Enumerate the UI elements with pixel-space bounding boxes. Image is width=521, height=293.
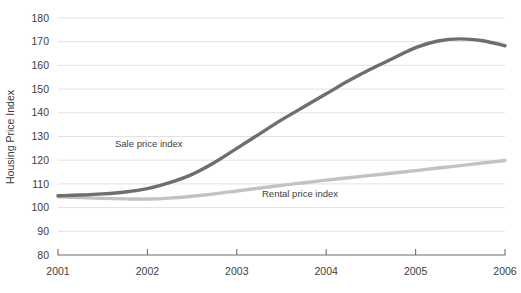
y-axis-tick-label: 150: [31, 83, 49, 95]
y-axis-title: Housing Price Index: [4, 89, 16, 184]
housing-price-index-chart: 200120022003200420052006 809010011012013…: [0, 0, 521, 293]
y-axis-tick-label: 160: [31, 59, 49, 71]
y-axis-tick-label: 110: [32, 178, 49, 190]
y-axis-tick-label: 100: [31, 201, 49, 213]
y-axis-tick-label: 140: [31, 106, 49, 118]
y-axis-tick-label: 80: [37, 249, 49, 261]
x-axis-tick-label: 2004: [315, 265, 339, 277]
x-axis-tick-label: 2003: [225, 265, 249, 277]
chart-canvas: 200120022003200420052006 809010011012013…: [0, 0, 521, 293]
y-axis-tick-label: 120: [31, 154, 49, 166]
y-axis-tick-label: 130: [31, 130, 49, 142]
series-label-sale-price-index: Sale price index: [115, 138, 183, 149]
y-axis-tick-label: 170: [31, 35, 49, 47]
chart-background: [0, 0, 521, 293]
x-axis-tick-label: 2005: [404, 265, 428, 277]
x-axis-tick-label: 2001: [46, 265, 70, 277]
y-axis-tick-label: 90: [37, 225, 49, 237]
x-axis-tick-label: 2002: [136, 265, 160, 277]
x-axis-tick-label: 2006: [493, 265, 517, 277]
series-label-rental-price-index: Rental price index: [262, 188, 338, 199]
y-axis-tick-label: 180: [31, 12, 49, 24]
